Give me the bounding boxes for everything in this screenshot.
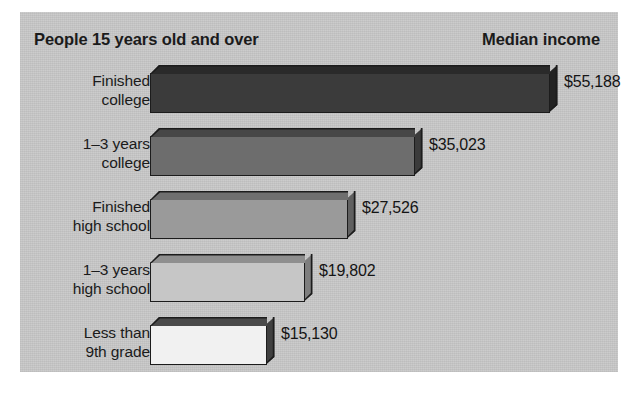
bar-top-face [150, 128, 415, 137]
bar-row: Finishedcollege$55,188 [20, 60, 618, 123]
bar-category-label-line1: 1–3 years [0, 135, 150, 154]
bar-3d [150, 191, 357, 240]
bar-top-face [150, 254, 305, 263]
bar-category-label: Less than9th grade [0, 324, 150, 361]
bar-3d [150, 65, 559, 114]
bar-category-label-line1: Finished [0, 72, 150, 91]
bar-value-label: $15,130 [281, 325, 337, 343]
bar-top-face [150, 317, 267, 326]
bar-category-label-line2: high school [0, 217, 150, 236]
chart-title-right: Median income [482, 30, 600, 49]
bar-value-label: $19,802 [319, 262, 375, 280]
bar-value-label: $27,526 [362, 199, 418, 217]
bar-row: Less than9th grade$15,130 [20, 312, 618, 375]
bar-category-label-line2: high school [0, 280, 150, 299]
bar-category-label: 1–3 yearshigh school [0, 261, 150, 298]
bar-front-face [150, 199, 348, 239]
bar-3d [150, 317, 276, 366]
bar-category-label: Finishedhigh school [0, 198, 150, 235]
bar-category-label: Finishedcollege [0, 72, 150, 109]
bar-top-face [150, 191, 348, 200]
bar-top-face [150, 65, 550, 74]
bar-category-label-line2: college [0, 154, 150, 173]
bar-row: Finishedhigh school$27,526 [20, 186, 618, 249]
bar-category-label-line1: Less than [0, 324, 150, 343]
bar-category-label-line1: Finished [0, 198, 150, 217]
bar-front-face [150, 73, 550, 113]
chart-header: People 15 years old and over Median inco… [20, 30, 618, 56]
bar-value-label: $55,188 [564, 73, 620, 91]
bar-3d [150, 254, 314, 303]
plot-area: Finishedcollege$55,1881–3 yearscollege$3… [20, 60, 618, 365]
bar-value-label: $35,023 [429, 136, 485, 154]
bar-category-label: 1–3 yearscollege [0, 135, 150, 172]
bar-front-face [150, 136, 415, 176]
chart-figure: People 15 years old and over Median inco… [20, 12, 618, 372]
bar-row: 1–3 yearshigh school$19,802 [20, 249, 618, 312]
bar-category-label-line2: 9th grade [0, 343, 150, 362]
bar-category-label-line2: college [0, 91, 150, 110]
bar-front-face [150, 325, 267, 365]
bar-3d [150, 128, 424, 177]
bar-front-face [150, 262, 305, 302]
bar-category-label-line1: 1–3 years [0, 261, 150, 280]
chart-title-left: People 15 years old and over [34, 30, 259, 49]
bar-row: 1–3 yearscollege$35,023 [20, 123, 618, 186]
